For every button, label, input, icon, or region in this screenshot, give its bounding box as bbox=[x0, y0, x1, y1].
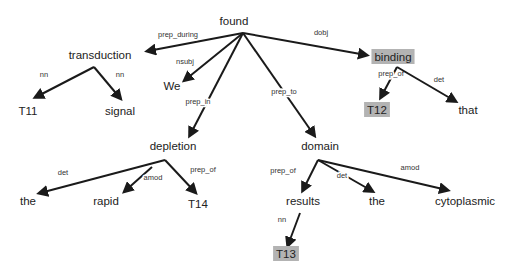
edge-label: amod bbox=[144, 173, 163, 182]
edge-label: dobj bbox=[314, 28, 329, 37]
edge-label: amod bbox=[401, 163, 420, 172]
edge-label: prep_in bbox=[185, 97, 210, 106]
node-signal: signal bbox=[105, 105, 135, 117]
edge-label: prep_of bbox=[270, 166, 296, 175]
node-domain: domain bbox=[301, 140, 339, 152]
edge-depletion-rapid: amodamod bbox=[125, 167, 162, 191]
edge-found-domain: prep_toprep_to bbox=[243, 33, 314, 135]
node-rapid: rapid bbox=[93, 195, 119, 207]
edge-label: nn bbox=[278, 215, 286, 224]
edge-label: det bbox=[337, 171, 348, 180]
edge-label: prep_during bbox=[158, 30, 198, 39]
edge-depletion-T14: prep_ofprep_of bbox=[165, 160, 217, 192]
node-the1: the bbox=[20, 195, 36, 207]
node-T13: T13 bbox=[276, 248, 296, 260]
edge-domain-results: prep_ofprep_of bbox=[270, 160, 318, 190]
node-T14: T14 bbox=[188, 198, 208, 210]
node-We: We bbox=[163, 80, 180, 92]
node-binding: binding bbox=[374, 51, 411, 63]
node-T12: T12 bbox=[367, 104, 387, 116]
edge-binding-T12: prep_ofprep_of bbox=[378, 67, 404, 97]
edge-label: det bbox=[58, 168, 69, 177]
edge-label: prep_of bbox=[190, 165, 216, 174]
edge-label: nn bbox=[40, 70, 48, 79]
edge-results-T13: nnnn bbox=[278, 213, 300, 245]
edge-found-depletion: prep_inprep_in bbox=[185, 33, 243, 135]
edge-arrow bbox=[190, 33, 243, 135]
edge-arrow bbox=[243, 33, 366, 55]
edge-transduction-signal: nnnn bbox=[94, 67, 124, 98]
edge-domain-the2: detdet bbox=[318, 160, 372, 191]
node-T11: T11 bbox=[19, 105, 38, 117]
edge-label: prep_to bbox=[271, 87, 296, 96]
node-the2: the bbox=[369, 195, 385, 207]
edge-arrow bbox=[397, 67, 455, 101]
node-that: that bbox=[458, 104, 478, 116]
edge-label: nsubj bbox=[176, 57, 194, 66]
node-found: found bbox=[220, 15, 249, 27]
edge-binding-that: detdet bbox=[397, 67, 455, 101]
node-results: results bbox=[286, 195, 320, 207]
dependency-tree-diagram: prep_duringprep_duringnsubjnsubjprep_inp… bbox=[0, 0, 512, 277]
edge-label: det bbox=[434, 75, 445, 84]
edge-arrow bbox=[303, 160, 318, 190]
node-cytoplasmic: cytoplasmic bbox=[435, 195, 495, 207]
node-transduction: transduction bbox=[69, 49, 132, 61]
edge-found-binding: dobjdobj bbox=[243, 28, 366, 55]
node-depletion: depletion bbox=[150, 140, 197, 152]
edge-found-transduction: prep_duringprep_during bbox=[148, 30, 243, 51]
edge-label: nn bbox=[116, 70, 124, 79]
edge-arrow bbox=[243, 33, 314, 135]
edge-label: prep_of bbox=[378, 69, 404, 78]
edge-arrow bbox=[288, 213, 300, 245]
edge-transduction-T11: nnnn bbox=[36, 67, 94, 97]
